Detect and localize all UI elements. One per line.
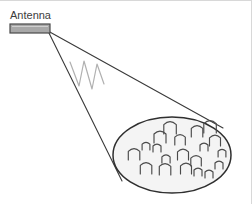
coverage-footprint-ellipse xyxy=(113,117,231,193)
antenna-bar xyxy=(10,24,50,33)
antenna-group xyxy=(10,24,50,33)
diagram-canvas: Antenna xyxy=(0,0,252,204)
beam-upper-line xyxy=(48,31,223,128)
antenna-coverage-diagram: Antenna xyxy=(0,0,252,204)
antenna-label: Antenna xyxy=(10,9,52,21)
beam-lower-line xyxy=(48,31,122,181)
